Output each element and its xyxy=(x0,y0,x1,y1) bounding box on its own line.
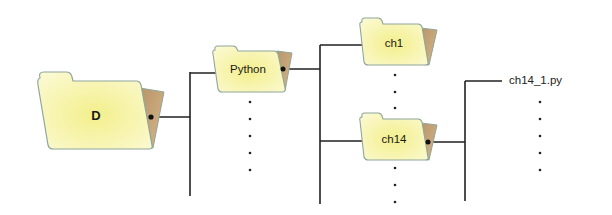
connector-python xyxy=(283,45,362,204)
folder-ch14[interactable]: ch14 xyxy=(360,113,437,160)
folder-d[interactable]: D xyxy=(38,72,164,149)
connector-dot xyxy=(281,67,286,72)
ch1-to-ch14-ellipsis xyxy=(394,74,397,110)
python-ellipsis xyxy=(249,101,252,172)
folder-python[interactable]: Python xyxy=(213,46,292,92)
connector-dot xyxy=(148,114,153,119)
file-ch14-1-py[interactable]: ch14_1.py xyxy=(509,74,562,86)
file-ellipsis xyxy=(539,101,542,172)
file-label: ch14_1.py xyxy=(509,74,562,86)
folder-label: ch14 xyxy=(382,133,408,145)
connector-d xyxy=(151,72,216,196)
connector-lines xyxy=(151,45,502,204)
connector-ch14 xyxy=(428,81,502,201)
directory-tree-diagram: D Python ch1 ch14 ch14_1.py xyxy=(0,0,612,215)
folder-label: Python xyxy=(230,63,266,75)
connector-dot xyxy=(426,140,431,145)
folder-ch1[interactable]: ch1 xyxy=(360,18,437,65)
ch14-ellipsis xyxy=(394,167,397,204)
folder-label: ch1 xyxy=(385,37,404,49)
folder-label: D xyxy=(91,108,100,123)
